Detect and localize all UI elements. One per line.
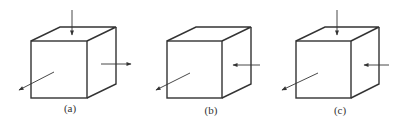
panel-label-b: (b) [205, 104, 218, 117]
front-diagonal-arrow-icon [156, 73, 190, 90]
cube-a [31, 27, 116, 98]
panel-a: (a) [19, 10, 131, 115]
panel-label-a: (a) [64, 102, 77, 115]
cube-c [296, 27, 379, 98]
cube-b [167, 27, 251, 98]
stress-cubes-diagram: (a) (b) (c) [0, 0, 403, 124]
panel-c: (c) [282, 10, 389, 117]
front-diagonal-arrow-icon [19, 72, 54, 90]
panel-label-c: (c) [334, 104, 347, 117]
front-diagonal-arrow-icon [282, 73, 318, 90]
panel-b: (b) [156, 27, 260, 117]
